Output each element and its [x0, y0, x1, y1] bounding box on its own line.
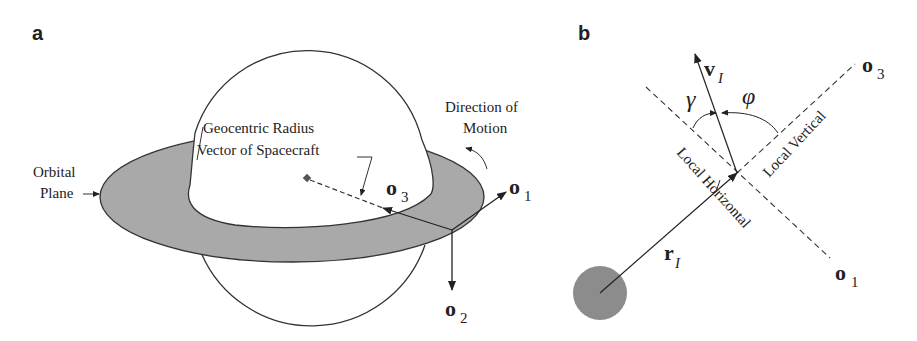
figure-canvas: a Geocentric Radius Vector of Spacecraft…	[0, 0, 917, 341]
panel-b: b γ φ v I r I o 3 o 1	[573, 22, 885, 320]
direction-of-motion-arrow	[466, 148, 487, 169]
phi-label: φ	[742, 83, 755, 109]
panel-b-label: b	[578, 22, 590, 44]
gamma-label: γ	[686, 86, 696, 112]
svg-text:3: 3	[877, 66, 885, 82]
local-vertical-label: Local Vertical	[759, 108, 828, 181]
earth-upper	[188, 51, 433, 228]
panel-a: a Geocentric Radius Vector of Spacecraft…	[32, 22, 532, 326]
geocentric-label-line2: Vector of Spacecraft	[197, 142, 320, 158]
svg-text:1: 1	[524, 188, 532, 204]
gamma-angle-arc	[693, 113, 716, 128]
svg-text:o: o	[386, 175, 397, 200]
svg-text:r: r	[664, 240, 674, 265]
panel-a-label: a	[32, 22, 44, 44]
svg-text:o: o	[862, 52, 873, 77]
direction-label-line2: Motion	[463, 120, 508, 136]
svg-text:2: 2	[460, 310, 468, 326]
o3-label-b: o 3	[862, 52, 885, 82]
o1-label-b: o 1	[835, 260, 859, 290]
svg-text:I: I	[717, 70, 724, 86]
v-label: v I	[704, 56, 724, 86]
geocentric-label-line1: Geocentric Radius	[203, 120, 314, 136]
o1-label-a: o 1	[509, 174, 532, 204]
svg-text:3: 3	[401, 189, 409, 205]
svg-text:1: 1	[851, 274, 859, 290]
svg-text:v: v	[704, 56, 715, 81]
svg-text:o: o	[509, 174, 520, 199]
o2-label-a: o 2	[445, 296, 468, 326]
direction-label-line1: Direction of	[445, 99, 518, 115]
r-label: r I	[664, 240, 681, 271]
svg-text:o: o	[445, 296, 456, 321]
svg-text:I: I	[674, 255, 681, 271]
orbital-label-line1: Orbital	[33, 164, 76, 180]
svg-text:o: o	[835, 260, 846, 285]
orbital-label-line2: Plane	[40, 185, 74, 201]
local-vertical-line	[737, 64, 855, 173]
phi-angle-arc	[722, 113, 778, 133]
